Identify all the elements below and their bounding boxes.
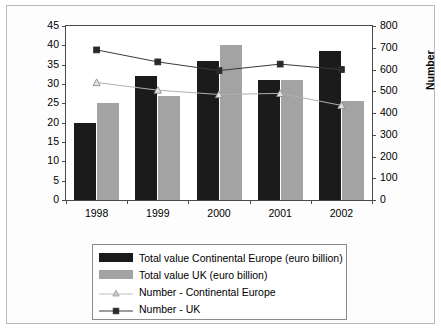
swatch-grey-icon	[99, 270, 133, 279]
y-axis-left-tick-label: 30	[37, 77, 59, 89]
y-axis-left-tick-label: 35	[37, 58, 59, 70]
legend-label: Total value UK (euro billion)	[139, 269, 267, 281]
y-axis-right-tick-label: 100	[380, 171, 408, 183]
data-point-marker	[155, 59, 161, 65]
data-point-marker	[339, 67, 345, 73]
legend-label: Number - UK	[139, 303, 200, 315]
plot-area	[65, 25, 373, 201]
y-axis-left-tick-label: 5	[37, 174, 59, 186]
y-axis-right-title: Number	[424, 50, 436, 90]
swatch-dark-icon	[99, 253, 133, 262]
legend-label: Total value Continental Europe (euro bil…	[139, 252, 343, 264]
x-axis-tick-label: 1999	[133, 207, 183, 219]
y-axis-left-tick-label: 0	[37, 193, 59, 205]
y-axis-right-tick-label: 400	[380, 106, 408, 118]
legend-item-uk-value: Total value UK (euro billion)	[99, 266, 340, 283]
y-axis-right-tick-label: 300	[380, 128, 408, 140]
x-axis-tick-label: 2002	[316, 207, 366, 219]
chart-legend: Total value Continental Europe (euro bil…	[92, 244, 347, 320]
legend-item-number-continental-europe: Number - Continental Europe	[99, 283, 340, 300]
y-axis-right-tick-label: 500	[380, 84, 408, 96]
y-axis-right-tick-label: 800	[380, 19, 408, 31]
data-point-marker	[277, 61, 283, 67]
chart-figure: Euro billion Number 051015202530354045 0…	[0, 0, 441, 330]
y-axis-right-tick-label: 700	[380, 41, 408, 53]
legend-label: Number - Continental Europe	[139, 286, 276, 298]
data-point-marker	[216, 68, 222, 74]
x-axis-tick-label: 2001	[255, 207, 305, 219]
y-axis-left-tick-label: 25	[37, 96, 59, 108]
data-point-marker	[93, 79, 100, 86]
x-axis-tick-label: 2000	[194, 207, 244, 219]
y-axis-left-tick-label: 45	[37, 19, 59, 31]
y-axis-left-tick-label: 40	[37, 38, 59, 50]
line-series-group	[66, 26, 372, 200]
y-axis-right-tick-label: 600	[380, 63, 408, 75]
y-axis-right-tick-label: 0	[380, 193, 408, 205]
y-axis-right-tick-label: 200	[380, 150, 408, 162]
y-axis-left-tick-label: 20	[37, 116, 59, 128]
legend-item-continental-europe-value: Total value Continental Europe (euro bil…	[99, 249, 340, 266]
x-axis-tick-label: 1998	[72, 207, 122, 219]
line-square-icon	[99, 303, 133, 315]
line-triangle-icon	[99, 286, 133, 298]
y-axis-left-tick-label: 10	[37, 154, 59, 166]
legend-item-number-uk: Number - UK	[99, 300, 340, 317]
y-axis-left-tick-label: 15	[37, 135, 59, 147]
data-point-marker	[94, 47, 100, 53]
